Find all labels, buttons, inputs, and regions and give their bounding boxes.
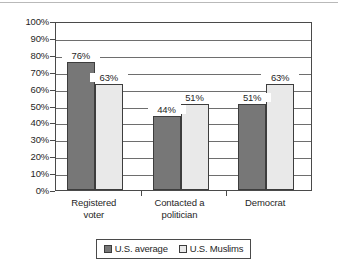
x-category-label: Registered voter (50, 197, 138, 220)
bar-chart-figure: 0%10%20%30%40%50%60%70%80%90%100% 76%63%… (0, 0, 338, 273)
y-tick-label: 10% (3, 169, 49, 179)
bar-value-label: 63% (261, 73, 299, 83)
bar-value-label: 76% (62, 51, 100, 61)
x-tick-mark (141, 191, 142, 196)
legend-label-us-muslims: U.S. Muslims (190, 244, 244, 254)
x-category-label: Contacted a politician (136, 197, 224, 220)
y-tick-label: 50% (3, 102, 49, 112)
bar-value-label: 44% (148, 105, 186, 115)
bar-value-label: 63% (90, 73, 128, 83)
bar (153, 116, 181, 190)
y-tick-label: 80% (3, 51, 49, 61)
y-tick-label: 20% (3, 152, 49, 162)
bar-value-label: 51% (233, 93, 271, 103)
bar-value-label: 51% (176, 93, 214, 103)
y-tick-label: 70% (3, 68, 49, 78)
x-category-label: Democrat (221, 197, 309, 209)
y-tick-label: 100% (3, 17, 49, 27)
bar (238, 104, 266, 190)
legend-entry-0: U.S. average (104, 244, 168, 254)
legend-swatch-icon-us-average (104, 245, 112, 253)
legend-label-us-average: U.S. average (115, 244, 168, 254)
x-tick-mark (226, 191, 227, 196)
y-tick-label: 90% (3, 34, 49, 44)
gridline (56, 40, 311, 41)
y-tick-label: 30% (3, 135, 49, 145)
y-tick-label: 40% (3, 118, 49, 128)
y-tick-label: 60% (3, 85, 49, 95)
y-tick-label: 0% (3, 186, 49, 196)
y-tick-mark (50, 191, 55, 192)
bar (95, 84, 123, 190)
bar (181, 104, 209, 190)
chart-legend: U.S. average U.S. Muslims (96, 239, 251, 259)
legend-entry-1: U.S. Muslims (179, 244, 244, 254)
legend-swatch-icon-us-muslims (179, 245, 187, 253)
page-top-rule (0, 2, 338, 3)
